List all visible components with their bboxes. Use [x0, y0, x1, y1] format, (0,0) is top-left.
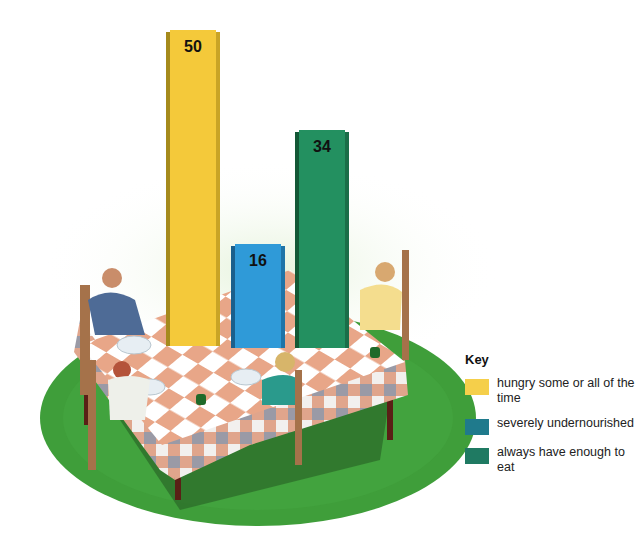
legend-title: Key [465, 352, 640, 367]
legend-label: severely undernourished [497, 416, 634, 431]
legend-swatch-green [465, 448, 489, 464]
bar-value-label: 50 [166, 38, 220, 56]
legend-swatch-yellow [465, 379, 489, 395]
legend-swatch-blue [465, 419, 489, 435]
legend-item: severely undernourished [465, 416, 640, 435]
bar-undernourished: 16 [231, 244, 285, 348]
legend-label: hungry some or all of the time [497, 376, 640, 406]
legend-item: always have enough to eat [465, 445, 640, 475]
bar-hungry: 50 [166, 30, 220, 346]
bar-value-label: 34 [295, 138, 349, 156]
legend-item: hungry some or all of the time [465, 376, 640, 406]
legend: Key hungry some or all of the time sever… [465, 352, 640, 485]
legend-label: always have enough to eat [497, 445, 640, 475]
bar-value-label: 16 [231, 252, 285, 270]
bar-enough-to-eat: 34 [295, 130, 349, 348]
